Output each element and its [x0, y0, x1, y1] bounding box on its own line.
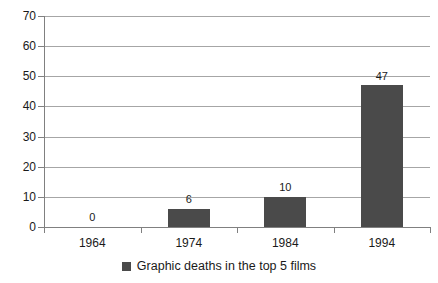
bar-group: 6 — [141, 16, 238, 227]
y-axis-tick-label: 0 — [2, 221, 36, 233]
x-axis-tick — [141, 227, 142, 233]
y-axis-tick-label: 40 — [2, 100, 36, 112]
x-axis-tick — [430, 227, 431, 233]
legend-entry-label: Graphic deaths in the top 5 films — [137, 259, 316, 273]
y-axis-line — [44, 16, 45, 231]
chart-legend: Graphic deaths in the top 5 films — [0, 259, 438, 273]
bar-group: 10 — [237, 16, 334, 227]
legend-swatch-icon — [122, 262, 131, 271]
y-axis-tick-label: 20 — [2, 161, 36, 173]
bar-value-label: 10 — [279, 182, 291, 193]
bar-group: 47 — [334, 16, 431, 227]
y-axis-labels: 70 60 50 40 30 20 10 0 — [0, 0, 36, 283]
x-axis-tick — [237, 227, 238, 233]
plot-area: 0 6 10 47 — [44, 16, 430, 227]
y-axis-tick-label: 60 — [2, 40, 36, 52]
bar-value-label: 6 — [186, 194, 192, 205]
y-axis-tick-label: 70 — [2, 10, 36, 22]
y-axis-tick-label: 30 — [2, 131, 36, 143]
x-axis-tick — [44, 227, 45, 233]
x-axis-label-1994: 1994 — [334, 236, 431, 250]
bar-group: 0 — [44, 16, 141, 227]
x-axis-label-1964: 1964 — [44, 236, 141, 250]
bar-value-label: 0 — [89, 212, 95, 223]
x-axis-label-1974: 1974 — [141, 236, 238, 250]
bar-chart: 70 60 50 40 30 20 10 0 0 6 — [0, 0, 438, 283]
x-axis-tick — [334, 227, 335, 233]
bar[interactable] — [168, 209, 210, 227]
bar-value-label: 47 — [376, 71, 388, 82]
y-axis-tick-label: 10 — [2, 191, 36, 203]
x-axis-label-1984: 1984 — [237, 236, 334, 250]
bar[interactable] — [264, 197, 306, 227]
bar[interactable] — [361, 85, 403, 227]
y-axis-tick-label: 50 — [2, 70, 36, 82]
